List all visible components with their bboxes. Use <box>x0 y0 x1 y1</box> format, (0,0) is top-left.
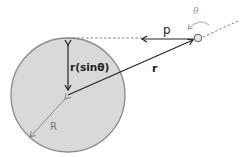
label-angle: θ <box>193 6 199 16</box>
angular-momentum-diagram: p r r(sinθ) R θ <box>0 0 240 157</box>
label-lever-arm: r(sinθ) <box>70 61 109 73</box>
particle <box>194 34 202 42</box>
label-momentum: p <box>163 23 171 37</box>
label-position: r <box>152 62 158 75</box>
r-extension-dashed <box>203 21 238 37</box>
angle-arc-icon <box>188 22 209 29</box>
label-radius: R <box>50 121 57 132</box>
